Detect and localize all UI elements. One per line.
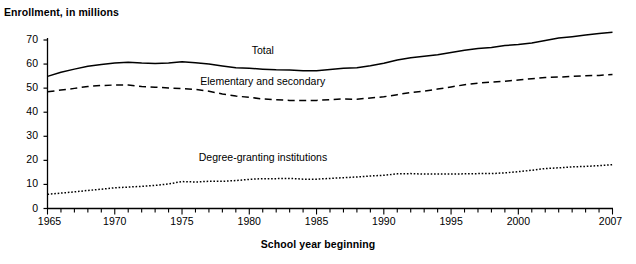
y-tick-label: 60: [8, 58, 38, 69]
y-tick-label: 0: [8, 203, 38, 214]
x-tick-label: 1965: [25, 216, 75, 227]
y-tick-label: 10: [8, 178, 38, 189]
y-tick-label: 20: [8, 154, 38, 165]
x-tick-label: 1970: [90, 216, 140, 227]
x-tick-label: 1990: [359, 216, 409, 227]
series-label: Elementary and secondary: [199, 76, 326, 87]
x-axis-label: School year beginning: [0, 238, 636, 250]
enrollment-line-chart: Enrollment, in millions 010203040506070 …: [0, 0, 636, 264]
x-tick-label: 2000: [493, 216, 543, 227]
series-label: Total: [251, 45, 275, 56]
series-line: [48, 32, 613, 76]
series-label: Degree-granting institutions: [198, 152, 328, 163]
x-tick-label: 1985: [292, 216, 342, 227]
series-line: [48, 165, 613, 195]
data-series: [48, 32, 613, 194]
x-axis-ticks: [48, 209, 613, 215]
x-tick-label: 1975: [157, 216, 207, 227]
x-tick-label: 2007: [586, 216, 636, 227]
series-line: [48, 74, 613, 100]
axes: [47, 38, 613, 209]
y-tick-label: 50: [8, 82, 38, 93]
y-tick-label: 40: [8, 106, 38, 117]
y-tick-label: 30: [8, 130, 38, 141]
x-tick-label: 1995: [426, 216, 476, 227]
x-tick-label: 1980: [224, 216, 274, 227]
y-tick-label: 70: [8, 34, 38, 45]
